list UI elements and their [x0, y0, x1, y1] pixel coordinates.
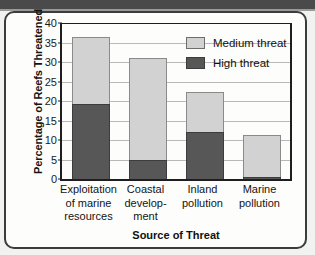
x-axis-tick-label-line: Inland	[173, 183, 233, 197]
x-axis-tick-label: Exploitationof marineresources	[59, 183, 119, 224]
scan-top-band	[0, 0, 315, 9]
x-axis-tick-labels: Exploitationof marineresourcesCoastaldev…	[60, 183, 292, 229]
bar-group[interactable]	[72, 37, 110, 179]
chart-screenshot: Percentage of Reefs Threatened 403530252…	[0, 0, 315, 255]
y-axis-tick-label: 0	[51, 173, 57, 185]
legend-swatch-high-threat-icon	[186, 57, 205, 69]
x-axis-tick-label-line: ment	[116, 210, 176, 224]
legend-item-high-threat: High threat	[186, 54, 298, 71]
x-axis-tick-label-line: pollution	[230, 197, 290, 211]
x-axis-tick-label: Coastaldevelop-ment	[116, 183, 176, 224]
y-axis-tick-label: 15	[45, 115, 57, 127]
x-axis-tick-label-line: of marine	[59, 197, 119, 211]
x-axis-tick-label-line: develop-	[116, 197, 176, 211]
x-axis-tick-label-line: Exploitation	[59, 183, 119, 197]
legend-swatch-medium-threat-icon	[186, 37, 205, 49]
y-axis-tick-label: 40	[45, 17, 57, 29]
bar-group[interactable]	[186, 92, 224, 179]
bar-segment-medium-threat[interactable]	[129, 58, 167, 160]
chart-card: Percentage of Reefs Threatened 403530252…	[4, 11, 307, 249]
legend-label-high-threat: High threat	[213, 57, 269, 69]
y-axis-tick-label: 35	[45, 37, 57, 49]
y-axis-tick-label: 20	[45, 95, 57, 107]
bar-group[interactable]	[243, 135, 281, 179]
legend-label-medium-threat: Medium threat	[213, 37, 287, 49]
bar-segment-medium-threat[interactable]	[243, 135, 281, 176]
chart-legend: Medium threat High threat	[186, 34, 298, 74]
plot-area: 4035302520151050 Medium threat High thre…	[60, 23, 292, 181]
legend-item-medium-threat: Medium threat	[186, 34, 298, 51]
bar-segment-medium-threat[interactable]	[186, 92, 224, 132]
x-axis-title: Source of Threat	[60, 229, 292, 241]
x-axis-tick-label-line: Coastal	[116, 183, 176, 197]
y-axis-title: Percentage of Reefs Threatened	[32, 14, 44, 174]
y-axis-tick-label: 25	[45, 76, 57, 88]
bar-segment-high-threat[interactable]	[129, 160, 167, 180]
x-axis-tick-label-line: Marine	[230, 183, 290, 197]
bar-segment-high-threat[interactable]	[72, 104, 110, 179]
x-axis-tick-label: Inlandpollution	[173, 183, 233, 210]
bar-segment-medium-threat[interactable]	[72, 37, 110, 104]
x-axis-tick-label-line: pollution	[173, 197, 233, 211]
bar-segment-high-threat[interactable]	[186, 132, 224, 179]
y-axis-tick-label: 5	[51, 154, 57, 166]
bar-group[interactable]	[129, 58, 167, 179]
x-axis-tick-label-line: resources	[59, 210, 119, 224]
x-axis-tick-label: Marinepollution	[230, 183, 290, 210]
y-axis-tick-label: 30	[45, 56, 57, 68]
y-axis-tick-label: 10	[45, 134, 57, 146]
bar-segment-high-threat[interactable]	[243, 177, 281, 179]
